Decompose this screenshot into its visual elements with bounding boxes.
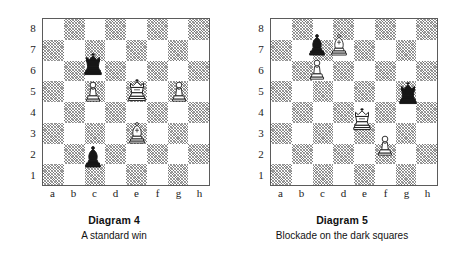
piece-slot-e4 — [125, 104, 149, 121]
piece-slot-f8 — [149, 19, 168, 36]
piece-slot-e2 — [125, 145, 149, 169]
piece-slot-g3 — [168, 121, 190, 145]
piece-slot-h3 — [190, 121, 209, 145]
black-king-g5[interactable] — [396, 81, 420, 107]
piece-slot-d2 — [328, 157, 350, 171]
piece-slot-g6 — [396, 57, 420, 81]
diagram-title: Diagram 4 — [0, 214, 228, 226]
file-label-a: a — [42, 188, 63, 202]
piece-slot-g1 — [168, 169, 190, 186]
piece-slot-a2 — [43, 145, 62, 169]
file-label-c: c — [84, 188, 105, 202]
white-pawn-c5[interactable] — [81, 78, 105, 104]
white-pawn-f3[interactable] — [374, 133, 396, 157]
rank-label-8: 8 — [26, 18, 40, 39]
piece-slot-a1 — [43, 169, 62, 186]
piece-slot-b8 — [288, 19, 305, 33]
white-pawn-g5[interactable] — [168, 78, 190, 104]
piece-slot-h4 — [190, 104, 209, 121]
piece-slot-h3 — [420, 133, 437, 157]
piece-slot-a6 — [271, 57, 288, 81]
piece-slot-a6 — [43, 52, 62, 78]
chessboard-diagram-4[interactable]: 87654321 abcdefgh — [26, 8, 208, 200]
piece-slot-f4 — [374, 107, 396, 133]
piece-slot-g8 — [168, 19, 190, 36]
piece-slot-d3 — [328, 133, 350, 157]
piece-slot-b6 — [62, 52, 81, 78]
piece-slot-h7 — [420, 33, 437, 57]
piece-slot-d2 — [105, 145, 124, 169]
piece-slot-a1 — [271, 171, 288, 185]
rank-label-4: 4 — [254, 102, 268, 123]
diagram-subtitle: Blockade on the dark squares — [228, 230, 456, 241]
piece-slot-a4 — [43, 104, 62, 121]
white-pawn-c6[interactable] — [306, 57, 328, 81]
piece-slot-d6 — [328, 57, 350, 81]
white-bishop-d7[interactable] — [328, 33, 350, 57]
piece-slot-a3 — [271, 133, 288, 157]
rank-labels: 87654321 — [26, 18, 40, 186]
rank-label-5: 5 — [254, 81, 268, 102]
file-label-c: c — [312, 188, 333, 202]
file-labels: abcdefgh — [42, 188, 210, 202]
piece-slot-e7 — [350, 33, 374, 57]
black-bishop-c2[interactable] — [81, 145, 105, 169]
white-king-e5[interactable] — [125, 78, 149, 104]
piece-slot-b3 — [62, 121, 81, 145]
piece-slot-h6 — [190, 52, 209, 78]
chess-diagrams-page: 87654321 abcdefgh Diagram 4 A standard w… — [0, 0, 456, 259]
piece-slot-h8 — [420, 19, 437, 33]
file-label-h: h — [189, 188, 210, 202]
rank-label-6: 6 — [254, 60, 268, 81]
piece-slot-h1 — [420, 171, 437, 185]
diagram-5-block: 87654321 abcdefgh Diagram 5 Blockade on … — [228, 0, 456, 259]
file-label-d: d — [333, 188, 354, 202]
piece-slot-a7 — [43, 36, 62, 53]
piece-slot-e6 — [350, 57, 374, 81]
rank-label-7: 7 — [254, 39, 268, 60]
file-label-e: e — [354, 188, 375, 202]
piece-slot-f7 — [149, 36, 168, 53]
piece-slot-e8 — [350, 19, 374, 33]
piece-slot-e6 — [125, 52, 149, 78]
piece-slot-h2 — [190, 145, 209, 169]
black-king-c6[interactable] — [81, 52, 105, 78]
piece-slot-e1 — [125, 169, 149, 186]
piece-slot-g4 — [168, 104, 190, 121]
piece-slot-d4 — [105, 104, 124, 121]
rank-label-2: 2 — [26, 144, 40, 165]
piece-slot-c2 — [306, 157, 328, 171]
black-bishop-c7[interactable] — [306, 33, 328, 57]
piece-slot-d5 — [105, 78, 124, 104]
rank-label-6: 6 — [26, 60, 40, 81]
piece-slot-b4 — [62, 104, 81, 121]
piece-slot-f5 — [149, 78, 168, 104]
file-label-f: f — [375, 188, 396, 202]
piece-slot-g6 — [168, 52, 190, 78]
piece-slot-g2 — [168, 145, 190, 169]
piece-slot-d8 — [105, 19, 124, 36]
piece-slot-c3 — [306, 133, 328, 157]
rank-labels: 87654321 — [254, 18, 268, 186]
piece-slot-a8 — [271, 19, 288, 33]
white-king-e4[interactable] — [350, 107, 374, 133]
piece-slot-c5 — [306, 81, 328, 107]
piece-slot-a3 — [43, 121, 62, 145]
piece-slot-b1 — [288, 171, 305, 185]
piece-slot-c1 — [306, 171, 328, 185]
rank-label-8: 8 — [254, 18, 268, 39]
piece-slot-d4 — [328, 107, 350, 133]
piece-slot-b7 — [62, 36, 81, 53]
piece-slot-b2 — [288, 157, 305, 171]
white-bishop-e3[interactable] — [125, 121, 149, 145]
chessboard-diagram-5[interactable]: 87654321 abcdefgh — [254, 8, 436, 200]
piece-slot-f6 — [374, 57, 396, 81]
piece-slot-a5 — [43, 78, 62, 104]
piece-slot-c4 — [81, 104, 105, 121]
board-squares[interactable] — [270, 18, 438, 186]
board-squares[interactable] — [42, 18, 210, 186]
file-label-h: h — [417, 188, 438, 202]
rank-label-3: 3 — [254, 123, 268, 144]
piece-slot-g8 — [396, 19, 420, 33]
piece-slot-b5 — [62, 78, 81, 104]
